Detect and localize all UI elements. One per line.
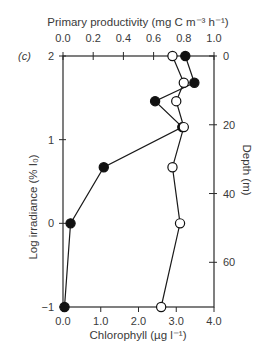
filled-circle-marker (66, 219, 75, 228)
bottom-tick-label: 0.0 (55, 315, 70, 327)
right-tick-label: 60 (223, 256, 235, 268)
top-axis-title: Primary productivity (mg C m⁻³ h⁻¹) (47, 16, 228, 28)
left-tick-label: 2 (48, 50, 54, 62)
top-tick-label: 0.0 (55, 32, 70, 44)
open-circle-marker (157, 302, 166, 311)
right-tick-label: 0 (223, 50, 229, 62)
bottom-tick-label: 3.0 (169, 315, 184, 327)
top-tick-label: 0.8 (176, 32, 191, 44)
filled-circle-marker (60, 302, 69, 311)
right-tick-label: 20 (223, 119, 235, 131)
left-axis-title: Log irradiance (% I₀) (27, 154, 39, 259)
filled-circle-marker (181, 51, 190, 60)
open-circle-marker (168, 163, 177, 172)
open-circle-marker (168, 51, 177, 60)
bottom-tick-label: 4.0 (206, 315, 221, 327)
open-circle-marker (172, 97, 181, 106)
left-tick-label: −1 (41, 301, 54, 313)
productivity-chlorophyll-chart: (c) Primary productivity (mg C m⁻³ h⁻¹) … (0, 0, 266, 355)
filled-circle-marker (99, 163, 108, 172)
top-tick-label: 0.6 (146, 32, 161, 44)
open-circle-marker (179, 123, 188, 132)
right-tick-label: 40 (223, 188, 235, 200)
panel-label: (c) (18, 50, 31, 62)
bottom-tick-label: 2.0 (131, 315, 146, 327)
filled-circle-marker (190, 78, 199, 87)
filled-circle-marker (151, 97, 160, 106)
top-tick-label: 0.4 (116, 32, 131, 44)
bottom-axis-title: Chlorophyll (µg l⁻¹) (90, 329, 187, 341)
open-circle-marker (179, 78, 188, 87)
top-tick-label: 0.2 (86, 32, 101, 44)
data-series (60, 51, 199, 311)
right-axis-title: Depth (m) (241, 144, 253, 195)
plot-frame (63, 56, 214, 307)
top-tick-label: 1.0 (206, 32, 221, 44)
open-circle-marker (175, 219, 184, 228)
bottom-tick-label: 1.0 (93, 315, 108, 327)
axis-ticks: 0.00.20.40.60.81.00.01.02.03.04.0210−102… (41, 32, 235, 327)
left-tick-label: 1 (48, 134, 54, 146)
left-tick-label: 0 (48, 217, 54, 229)
